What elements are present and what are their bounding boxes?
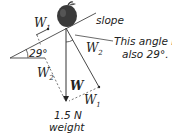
angle-note-line1: This angle is — [114, 35, 172, 47]
weight-caption: weight — [49, 121, 85, 133]
w1-bottom-label: W1 — [84, 93, 101, 109]
weight-value: 1.5 N — [54, 109, 82, 121]
w1-top-dashed — [37, 35, 41, 46]
force-diagram: W1 slope This angle is also 29°. 29° W2 … — [0, 0, 172, 138]
weight-label: W — [70, 79, 85, 93]
w1-top-label: W1 — [34, 16, 51, 32]
slope-label: slope — [96, 14, 124, 26]
w2-left-label: W2 — [37, 66, 54, 82]
angle-note-line2: also 29°. — [122, 48, 169, 60]
angle-arc-top — [66, 40, 73, 42]
slope-line — [10, 13, 96, 58]
angle-label: 29° — [29, 47, 48, 59]
angle-arc — [26, 49, 28, 58]
w2-right-label: W2 — [86, 41, 103, 57]
apple-icon — [57, 2, 77, 27]
